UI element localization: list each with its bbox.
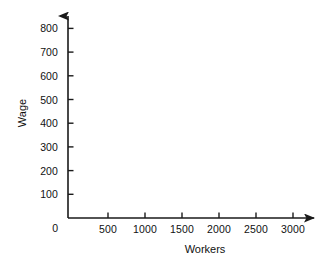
x-tick-label: 500 [99, 224, 117, 235]
origin-tick-label: 0 [16, 223, 58, 234]
plot-area [69, 16, 314, 218]
y-tick-label: 800 [16, 23, 58, 34]
y-tick-label: 300 [16, 142, 58, 153]
y-tick-label: 100 [16, 189, 58, 200]
x-tick-label: 2500 [244, 224, 268, 235]
x-tick-label: 3000 [281, 224, 305, 235]
y-tick-label: 600 [16, 71, 58, 82]
y-axis-title: Wage [17, 99, 28, 127]
y-tick-label: 700 [16, 47, 58, 58]
chart-root: 800 700 600 500 400 300 200 100 0 500 10… [0, 0, 335, 271]
x-tick-label: 2000 [207, 224, 231, 235]
x-tick-label: 1000 [133, 224, 157, 235]
x-axis-title: Workers [185, 244, 226, 255]
x-tick-label: 1500 [170, 224, 194, 235]
y-tick-label: 200 [16, 165, 58, 176]
